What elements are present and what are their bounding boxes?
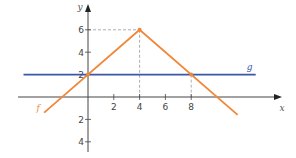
x-tick-label-2: 2 [111,102,117,112]
x-tick-label-4: 4 [137,102,143,112]
y-axis-arrow [85,4,91,12]
chart: xy246864224fg [0,0,296,158]
series-label-f: f [35,103,41,113]
series-label-g: g [247,62,253,72]
y-tick-label-4: 4 [78,48,84,58]
x-axis-arrow [274,94,282,100]
marker-point-1 [86,73,90,77]
x-tick-label-6: 6 [163,102,169,112]
marker-point-0 [138,28,142,32]
marker-point-2 [189,73,193,77]
y-axis-label: y [76,2,83,12]
y-tick-label--4: 4 [78,137,84,147]
y-tick-label--2: 2 [78,115,84,125]
y-tick-label-6: 6 [78,25,84,35]
x-axis-label: x [279,103,284,113]
x-tick-label-8: 8 [188,102,194,112]
